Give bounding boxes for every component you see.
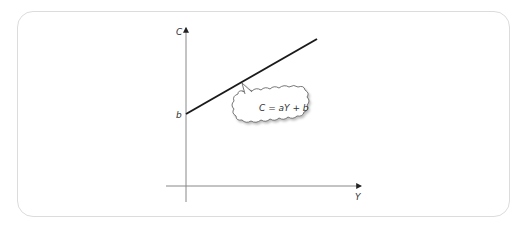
linear-graph: C Y b C = aY + b	[0, 0, 528, 227]
equation-text: C = aY + b	[259, 103, 309, 113]
intercept-label: b	[176, 110, 182, 120]
x-axis-label: Y	[355, 192, 362, 202]
y-axis-label: C	[176, 27, 183, 37]
